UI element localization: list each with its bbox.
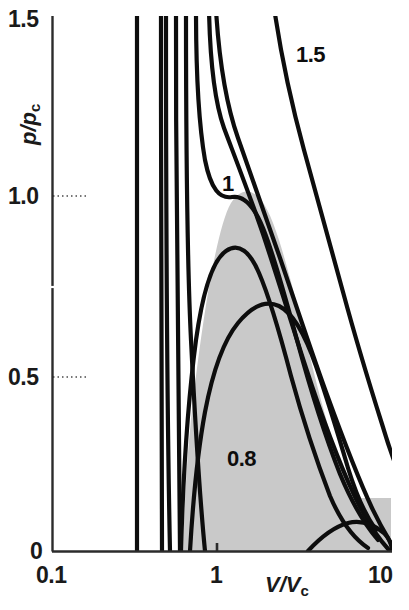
- curve-label-1.5: 1.5: [296, 42, 325, 68]
- dotted-guides: [53, 196, 87, 377]
- isotherm-curve-0.95-left-branch: [166, 10, 170, 551]
- isotherm-curve-0.9-left-branch: [161, 10, 162, 551]
- curve-label-1: 1: [222, 171, 234, 197]
- isotherm-curve-1-left-branch: [176, 10, 180, 551]
- chart-figure: 1.5 1.0 0.5 0 p/pc 0.1 1 10 V/Vc: [0, 0, 409, 610]
- plot-area: [0, 0, 409, 610]
- curve-label-0.8: 0.8: [227, 446, 256, 472]
